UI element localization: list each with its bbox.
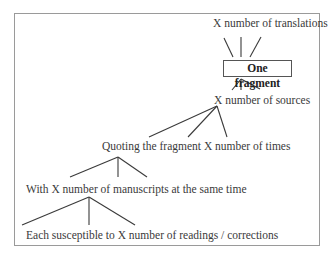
tree-connectors [0, 0, 335, 261]
node-fragment: One fragment [223, 60, 292, 77]
connector-translations-left [224, 38, 233, 57]
node-translations: X number of translations [213, 16, 328, 30]
connector-readings-left [22, 197, 89, 225]
node-sources: X number of sources [214, 93, 310, 107]
connector-quoting-right [217, 106, 227, 137]
connector-translations-right [250, 37, 261, 57]
node-readings: Each susceptible to X number of readings… [26, 228, 278, 242]
connector-manuscripts-right [118, 157, 147, 177]
connector-readings-right [89, 197, 135, 225]
connector-quoting-middle [188, 106, 217, 137]
connector-manuscripts-left [70, 157, 118, 177]
node-quoting: Quoting the fragment X number of times [102, 139, 290, 153]
connector-quoting-left [149, 106, 217, 137]
node-manuscripts: With X number of manuscripts at the same… [26, 182, 247, 196]
